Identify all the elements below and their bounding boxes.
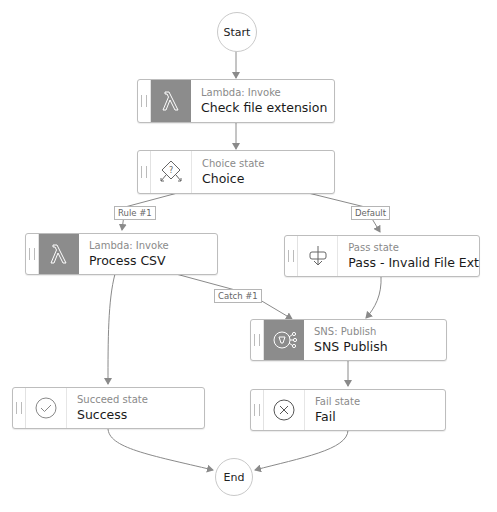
workflow-graph: Start Lambda: Invoke Check file extensio… bbox=[0, 0, 497, 512]
x-circle-icon bbox=[264, 390, 305, 430]
sns-icon bbox=[264, 320, 304, 360]
choice-icon: ? bbox=[151, 151, 192, 193]
end-label: End bbox=[224, 471, 245, 484]
drag-handle[interactable] bbox=[26, 234, 39, 274]
state-name: Check file extension bbox=[201, 99, 327, 116]
state-pass-invalid-file-ext[interactable]: Pass state Pass - Invalid File Ext bbox=[284, 235, 480, 277]
state-type: Choice state bbox=[202, 157, 264, 170]
state-choice[interactable]: ? Choice state Choice bbox=[137, 150, 335, 194]
drag-handle[interactable] bbox=[138, 80, 151, 122]
start-label: Start bbox=[224, 26, 251, 39]
start-node[interactable]: Start bbox=[217, 12, 257, 52]
check-circle-icon bbox=[26, 388, 67, 428]
state-name: Success bbox=[77, 406, 148, 423]
state-type: Lambda: Invoke bbox=[89, 239, 169, 252]
state-name: Choice bbox=[202, 170, 264, 187]
end-node[interactable]: End bbox=[215, 458, 253, 496]
state-fail[interactable]: Fail state Fail bbox=[250, 389, 446, 431]
state-name: SNS Publish bbox=[314, 338, 388, 355]
edge-label-catch-1[interactable]: Catch #1 bbox=[214, 289, 262, 303]
state-name: Pass - Invalid File Ext bbox=[348, 254, 479, 271]
drag-handle[interactable] bbox=[251, 390, 264, 430]
state-type: Succeed state bbox=[77, 393, 148, 406]
state-type: Fail state bbox=[315, 395, 360, 408]
state-success[interactable]: Succeed state Success bbox=[12, 387, 205, 429]
state-name: Process CSV bbox=[89, 252, 169, 269]
drag-handle[interactable] bbox=[13, 388, 26, 428]
lambda-icon bbox=[151, 80, 191, 122]
pass-icon bbox=[298, 236, 338, 276]
edge-label-default[interactable]: Default bbox=[351, 206, 390, 220]
edge-label-rule-1[interactable]: Rule #1 bbox=[114, 206, 156, 220]
drag-handle[interactable] bbox=[138, 151, 151, 193]
svg-text:?: ? bbox=[169, 166, 173, 175]
state-name: Fail bbox=[315, 408, 360, 425]
state-type: SNS: Publish bbox=[314, 325, 388, 338]
lambda-icon bbox=[39, 234, 79, 274]
state-type: Lambda: Invoke bbox=[201, 86, 327, 99]
state-type: Pass state bbox=[348, 241, 479, 254]
drag-handle[interactable] bbox=[285, 236, 298, 276]
state-check-file-extension[interactable]: Lambda: Invoke Check file extension bbox=[137, 79, 335, 123]
drag-handle[interactable] bbox=[251, 320, 264, 360]
state-sns-publish[interactable]: SNS: Publish SNS Publish bbox=[250, 319, 447, 361]
state-process-csv[interactable]: Lambda: Invoke Process CSV bbox=[25, 233, 218, 275]
